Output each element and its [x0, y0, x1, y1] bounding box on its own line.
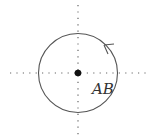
label-ab: AB: [90, 80, 114, 98]
center-dot: [75, 70, 82, 77]
diagram-canvas: AB: [0, 0, 159, 139]
